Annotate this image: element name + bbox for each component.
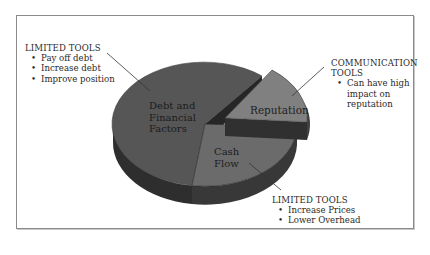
cash-callout-title: LIMITED TOOLS xyxy=(272,195,361,205)
debt-label-line-2: Financial xyxy=(149,112,196,124)
reputation-item-line: reputation xyxy=(347,99,418,109)
debt-callout: LIMITED TOOLS Pay off debt Increase debt… xyxy=(25,43,115,84)
debt-label-line-1: Debt and xyxy=(149,100,196,112)
reputation-callout-title-line-1: COMMUNICATION xyxy=(331,58,418,68)
debt-callout-title: LIMITED TOOLS xyxy=(25,43,115,53)
debt-label-line-3: Factors xyxy=(149,123,196,135)
reputation-item-line: impact on xyxy=(347,89,418,99)
pie-chart xyxy=(0,0,430,255)
reputation-item-line: Can have high xyxy=(347,78,418,88)
cash-callout: LIMITED TOOLS Increase Prices Lower Over… xyxy=(272,195,361,226)
cash-callout-item: Lower Overhead xyxy=(278,215,361,225)
reputation-callout: COMMUNICATION TOOLS Can have high impact… xyxy=(331,58,418,109)
debt-callout-item: Pay off debt xyxy=(31,53,115,63)
reputation-callout-item: Can have high impact on reputation xyxy=(337,78,418,109)
debt-slice-label: Debt and Financial Factors xyxy=(149,100,196,135)
cash-callout-item: Increase Prices xyxy=(278,205,361,215)
reputation-slice-label: Reputation xyxy=(250,104,309,116)
reputation-callout-title-line-2: TOOLS xyxy=(331,68,418,78)
cash-slice-label: Cash Flow xyxy=(214,146,239,169)
debt-callout-list: Pay off debt Increase debt Improve posit… xyxy=(25,53,115,84)
cash-label-line-1: Cash xyxy=(214,146,239,158)
cash-label-line-2: Flow xyxy=(214,158,239,170)
reputation-callout-list: Can have high impact on reputation xyxy=(331,78,418,109)
reputation-leader-line xyxy=(292,67,324,96)
debt-callout-item: Improve position xyxy=(31,74,115,84)
debt-callout-item: Increase debt xyxy=(31,63,115,73)
cash-callout-list: Increase Prices Lower Overhead xyxy=(272,205,361,225)
